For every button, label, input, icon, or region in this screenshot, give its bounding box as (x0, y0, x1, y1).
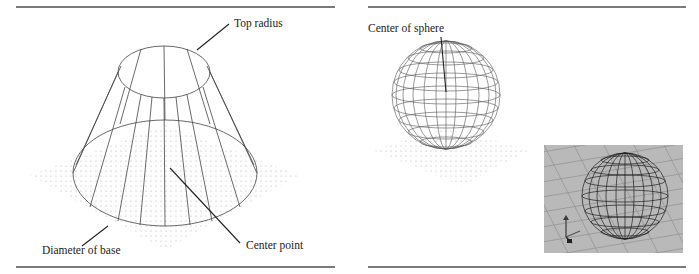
viewport-sphere (582, 153, 668, 239)
top-radius-label: Top radius (234, 18, 283, 30)
top-rule-right (368, 6, 686, 8)
diameter-of-base-label: Diameter of base (42, 245, 121, 257)
cone-frustum-diagram (0, 0, 350, 274)
center-of-sphere-label: Center of sphere (368, 23, 444, 35)
viewport-render (544, 145, 683, 253)
wireframe-sphere (392, 41, 500, 149)
axis-tripod-icon (563, 215, 580, 243)
diameter-leader (82, 226, 108, 246)
sphere-viewport-inset (544, 145, 683, 253)
top-radius-leader (197, 24, 229, 50)
center-point-label: Center point (246, 240, 303, 252)
bottom-rule-right (368, 266, 686, 268)
sphere-ground-grid (360, 120, 540, 190)
center-of-sphere-leader (441, 37, 446, 92)
